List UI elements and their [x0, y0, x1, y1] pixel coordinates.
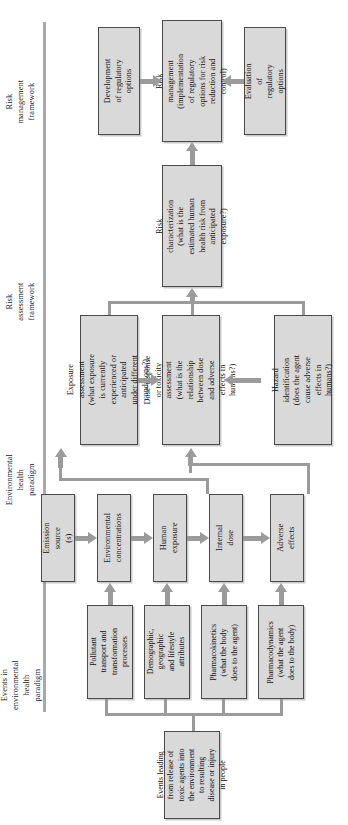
- section-label-risk-assessment-framework: Risk assessment framework: [0, 222, 42, 382]
- arrowhead-evaluation-to-risk-management: [222, 75, 231, 87]
- arrowhead-internal-dose-to-adverse-effects: [261, 532, 270, 544]
- section-label-risk-management-framework: Risk management framework: [0, 22, 42, 182]
- arrowhead-hazard-to-dose-response: [224, 374, 233, 386]
- flowchart-canvas: Development of regulatory options Risk m…: [46, 0, 348, 825]
- connector-bus-right-riser: [302, 301, 305, 315]
- node-demographic-geographic-lifestyle[interactable]: Demographic, geographic and lifestyle at…: [144, 605, 190, 699]
- connector-exposure-to-dose-response: [138, 378, 151, 383]
- node-label: Pharmacodynamics (what the agent does to…: [266, 621, 297, 684]
- node-label: Evaluation of regulatory options: [244, 61, 287, 101]
- node-emission-sources[interactable]: Emission source (s): [41, 494, 75, 582]
- connector-events-bus-riser-2: [164, 699, 167, 715]
- arrowhead-human-exposure-to-internal-dose: [200, 532, 209, 544]
- node-adverse-effects[interactable]: Adverse effects: [270, 494, 304, 582]
- connector-bus-left-riser: [108, 301, 111, 315]
- arrowhead-bus-to-dose-response: [185, 448, 197, 457]
- connector-pollutant-transport-to-emission: [108, 592, 113, 605]
- node-hazard-identification[interactable]: Hazard identification (does the agent ca…: [274, 315, 332, 445]
- section-label-text: Risk assessment framework: [4, 281, 37, 323]
- arrowhead-bus-to-exposure-assessment: [55, 448, 67, 457]
- node-label: Risk characterization (what is the estim…: [155, 197, 230, 255]
- connector-events-bus-riser-3: [222, 699, 225, 715]
- node-internal-dose[interactable]: Internal dose: [209, 494, 243, 582]
- arrowhead-pharmacodynamics-to-internal-dose: [275, 583, 287, 592]
- node-exposure-assessment[interactable]: Exposure assessment (what exposure is cu…: [80, 315, 138, 445]
- section-label-environmental-health-paradigm: Environmental health paradigm: [0, 400, 42, 560]
- connector-dose-response-bus-right-riser: [307, 463, 310, 494]
- node-label: Pharmacokinetics (what the body does to …: [209, 624, 240, 681]
- connector-bus-to-dose-response: [188, 456, 193, 466]
- node-risk-management[interactable]: Risk management (implementation of regul…: [162, 20, 222, 142]
- node-human-exposure[interactable]: Human exposure: [153, 494, 187, 582]
- connector-events-bus-riser-1: [105, 699, 108, 715]
- connector-development-to-risk-management: [140, 79, 153, 84]
- connector-environmental-to-human-exposure: [131, 536, 144, 541]
- connector-bus-to-risk-characterization: [190, 296, 195, 304]
- arrowhead-emission-to-environmental: [88, 532, 97, 544]
- node-label: Environmental concentrations: [103, 513, 125, 563]
- connector-paradigm-to-dose-response-bus: [189, 463, 310, 466]
- arrowhead-demographic-to-environmental: [161, 583, 173, 592]
- arrowhead-pollutant-transport-to-emission: [104, 583, 116, 592]
- arrowhead-environmental-to-human-exposure: [144, 532, 153, 544]
- node-label: Demographic, geographic and lifestyle at…: [146, 629, 187, 675]
- node-label: Development of regulatory options: [103, 59, 135, 104]
- arrowhead-risk-characterization-to-risk-management: [186, 142, 198, 151]
- connector-bus-to-exposure-assessment: [58, 456, 63, 468]
- connector-emission-to-environmental: [75, 536, 88, 541]
- section-label-column: Risk management framework Risk assessmen…: [0, 0, 42, 825]
- node-label: Adverse effects: [276, 522, 298, 554]
- connector-bus-risk-assessment-horizontal: [108, 301, 305, 304]
- section-label-text: Events in environmental health paradigm: [0, 660, 43, 710]
- node-environmental-concentrations[interactable]: Environmental concentrations: [97, 494, 131, 582]
- connector-internal-dose-to-adverse-effects: [243, 536, 261, 541]
- section-label-events-in-environmental-health-paradigm: Events in environmental health paradigm: [0, 590, 42, 780]
- node-evaluation-of-regulatory-options[interactable]: Evaluation of regulatory options: [244, 27, 286, 135]
- node-label: Events leading from release of toxic age…: [156, 748, 228, 802]
- node-pollutant-transport[interactable]: Pollutant transport and transformation p…: [87, 605, 133, 699]
- node-label: Internal dose: [215, 522, 237, 554]
- node-label: Risk management (implementation of regul…: [155, 52, 230, 110]
- connector-pharmacokinetics-to-human-exposure: [222, 592, 227, 605]
- arrowhead-development-to-risk-management: [153, 75, 162, 87]
- section-label-text: Risk management framework: [4, 80, 37, 124]
- connector-pharmacodynamics-to-internal-dose: [279, 592, 284, 605]
- connector-hazard-to-dose-response: [233, 378, 261, 383]
- node-events-leading-from-release-of-toxic-agents[interactable]: Events leading from release of toxic age…: [164, 731, 220, 819]
- node-development-of-regulatory-options[interactable]: Development of regulatory options: [98, 27, 140, 135]
- connector-events-bus-to-events-box: [192, 713, 195, 731]
- arrowhead-bus-to-risk-characterization: [186, 288, 198, 297]
- connector-evaluation-to-risk-management: [231, 79, 244, 84]
- node-label: Pollutant transport and transformation p…: [89, 628, 130, 675]
- node-pharmacokinetics[interactable]: Pharmacokinetics (what the body does to …: [201, 605, 247, 699]
- connector-human-exposure-to-internal-dose: [187, 536, 200, 541]
- connector-paradigm-to-exposure-right-riser: [206, 478, 209, 494]
- connector-risk-characterization-to-risk-management: [190, 151, 195, 165]
- arrowhead-pharmacokinetics-to-human-exposure: [218, 583, 230, 592]
- node-risk-characterization[interactable]: Risk characterization (what is the estim…: [162, 165, 222, 287]
- node-label: Emission source (s): [42, 522, 74, 554]
- node-pharmacodynamics[interactable]: Pharmacodynamics (what the agent does to…: [258, 605, 304, 699]
- connector-demographic-to-environmental: [165, 592, 170, 605]
- node-label: Human exposure: [159, 522, 181, 554]
- arrowhead-exposure-to-dose-response: [151, 374, 160, 386]
- section-label-text: Environmental health paradigm: [4, 454, 37, 505]
- node-label: Hazard identification (does the agent ca…: [271, 352, 335, 408]
- node-dose-response-or-toxicity-assessment[interactable]: Dose-response or toxicity assessment (wh…: [162, 315, 220, 445]
- connector-paradigm-to-exposure-bus: [59, 478, 209, 481]
- connector-events-bus-riser-4: [280, 699, 283, 715]
